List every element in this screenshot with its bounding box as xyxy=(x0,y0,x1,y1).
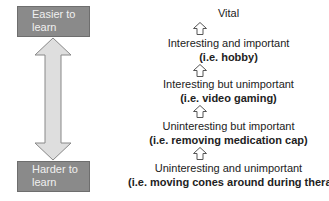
up-arrow-icon xyxy=(193,22,207,35)
up-arrow-icon xyxy=(193,64,207,77)
easier-to-learn-label: Easier to learn xyxy=(32,8,75,33)
example-medication-cap: (i.e. removing medication cap) xyxy=(128,134,329,147)
level-uninteresting-important: Uninteresting but important xyxy=(128,120,329,133)
up-arrow-icon xyxy=(193,147,207,160)
harder-to-learn-box: Harder to learn xyxy=(17,161,90,192)
level-interesting-important: Interesting and important xyxy=(128,37,329,50)
easier-to-learn-box: Easier to learn xyxy=(17,6,90,37)
example-video-gaming: (i.e. video gaming) xyxy=(128,92,329,105)
level-interesting-unimportant: Interesting but unimportant xyxy=(128,78,329,91)
up-arrow-icon xyxy=(193,105,207,118)
level-uninteresting-unimportant: Uninteresting and unimportant xyxy=(128,162,329,175)
harder-to-learn-label: Harder to learn xyxy=(32,163,78,188)
example-hobby: (i.e. hobby) xyxy=(128,51,329,64)
example-moving-cones: (i.e. moving cones around during therapy… xyxy=(128,176,329,189)
level-vital: Vital xyxy=(128,7,329,20)
double-headed-arrow-icon xyxy=(33,37,73,162)
